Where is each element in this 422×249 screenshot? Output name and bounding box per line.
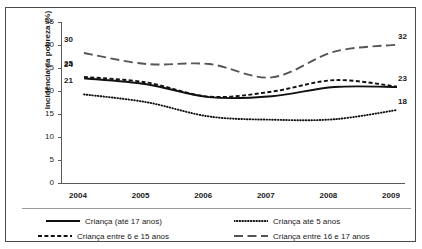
y-tick-label: 20 — [32, 87, 54, 95]
y-tick-label: 5 — [32, 156, 54, 164]
y-tick-mark — [58, 137, 61, 138]
series-start-label: 30 — [64, 36, 73, 44]
series-line — [84, 78, 397, 98]
legend-item[interactable]: Criança entre 16 e 17 anos — [234, 229, 370, 243]
y-axis-line — [61, 22, 62, 184]
y-tick-label: 0 — [32, 179, 54, 187]
x-tick-label: 2004 — [58, 192, 98, 200]
legend-line-swatch — [38, 231, 72, 241]
y-tick-mark — [58, 22, 61, 23]
series-line — [84, 94, 397, 120]
cut-off-title-remnant — [0, 0, 422, 3]
legend-item[interactable]: Criança entre 6 e 15 anos — [38, 229, 169, 243]
x-axis-line — [61, 183, 405, 184]
y-tick-label: 30 — [32, 41, 54, 49]
x-tick-label: 2005 — [121, 192, 161, 200]
series-end-label: 23 — [398, 75, 407, 83]
y-tick-mark — [58, 183, 61, 184]
legend-line-swatch — [234, 216, 268, 226]
legend-divider — [22, 208, 411, 209]
series-end-label: 32 — [398, 33, 407, 41]
series-line — [84, 77, 397, 97]
legend-label: Criança entre 16 e 17 anos — [273, 232, 370, 241]
legend-label: Criança até 5 anos — [273, 217, 340, 226]
y-tick-mark — [58, 91, 61, 92]
series-line — [84, 45, 397, 78]
figure-frame: Incidência da pobreza (%) 05101520253035… — [5, 7, 416, 242]
y-tick-mark — [58, 45, 61, 46]
x-tick-label: 2007 — [246, 192, 286, 200]
legend-item[interactable]: Criança (até 17 anos) — [46, 214, 162, 228]
legend-line-swatch — [234, 231, 268, 241]
series-end-label: 18 — [398, 98, 407, 106]
x-tick-label: 2009 — [371, 192, 411, 200]
series-start-label: 21 — [64, 77, 73, 85]
legend-line-swatch — [46, 216, 80, 226]
x-tick-label: 2008 — [308, 192, 348, 200]
y-tick-label: 10 — [32, 133, 54, 141]
x-tick-label: 2006 — [183, 192, 223, 200]
y-tick-mark — [58, 68, 61, 69]
legend-label: Criança entre 6 e 15 anos — [77, 232, 169, 241]
y-tick-mark — [58, 114, 61, 115]
legend-item[interactable]: Criança até 5 anos — [234, 214, 340, 228]
y-tick-label: 25 — [32, 64, 54, 72]
y-tick-mark — [58, 160, 61, 161]
legend-label: Criança (até 17 anos) — [85, 217, 162, 226]
y-tick-label: 15 — [32, 110, 54, 118]
series-plot — [6, 8, 422, 249]
series-start-label: 25 — [64, 60, 73, 68]
y-tick-label: 35 — [32, 18, 54, 26]
